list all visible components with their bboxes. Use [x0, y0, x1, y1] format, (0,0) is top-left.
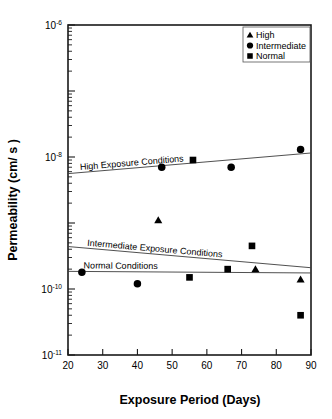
x-tick-label: 40 [132, 360, 144, 371]
trend-line-label: Intermediate Exposure Conditions [87, 238, 223, 260]
data-point-intermediate [78, 268, 85, 275]
data-point-normal [186, 274, 193, 281]
data-point-intermediate [134, 280, 141, 287]
data-markers [78, 146, 304, 319]
legend-label-intermediate: Intermediate [256, 41, 306, 51]
data-point-normal [249, 243, 256, 250]
legend-marker-intermediate [247, 42, 253, 48]
axis-tick-marks [68, 25, 311, 355]
x-tick-label: 20 [62, 360, 74, 371]
y-tick-label: 10-8 [45, 151, 62, 163]
y-tick-label: 10-11 [42, 349, 62, 361]
chart-container: Permeability (cm/ s ) Exposure Period (D… [0, 0, 332, 419]
trend-line-label: High Exposure Conditions [79, 153, 184, 172]
data-point-high [297, 275, 305, 282]
trend-line [68, 271, 311, 273]
data-point-intermediate [297, 146, 304, 153]
x-tick-label: 80 [271, 360, 283, 371]
y-axis-title: Permeability (cm/ s ) [6, 139, 20, 261]
x-tick-label: 30 [97, 360, 109, 371]
data-point-normal [297, 312, 304, 319]
x-axis-title-group: Exposure Period (Days) [119, 393, 260, 407]
trend-line-label: Normal Conditions [84, 260, 159, 270]
x-axis-title: Exposure Period (Days) [119, 393, 260, 407]
x-tick-label: 70 [236, 360, 248, 371]
legend-label-normal: Normal [256, 51, 285, 61]
legend-label-high: High [256, 30, 275, 40]
data-point-normal [190, 157, 197, 164]
y-axis-tick-labels: 10-610-810-1010-11 [41, 19, 62, 361]
data-point-intermediate [158, 163, 165, 170]
legend-marker-normal [247, 53, 253, 59]
x-axis-tick-labels: 2030405060708090 [62, 360, 317, 371]
data-point-high [251, 265, 259, 272]
data-point-high [154, 216, 162, 223]
y-axis-title-group: Permeability (cm/ s ) [6, 139, 20, 261]
x-tick-label: 50 [167, 360, 179, 371]
chart-legend[interactable]: HighIntermediateNormal [243, 27, 310, 62]
y-tick-label: 10-6 [45, 19, 62, 31]
data-point-normal [224, 266, 231, 273]
x-tick-label: 60 [201, 360, 213, 371]
x-tick-label: 90 [305, 360, 317, 371]
permeability-scatter-chart: Permeability (cm/ s ) Exposure Period (D… [0, 0, 332, 419]
data-point-intermediate [227, 163, 234, 170]
plot-frame [68, 25, 311, 355]
y-tick-label: 10-10 [41, 283, 62, 295]
